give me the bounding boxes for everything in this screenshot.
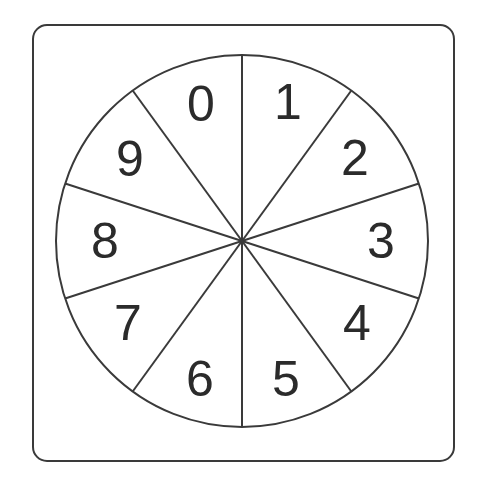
wheel-sector-label-2: 2 [341, 130, 369, 186]
wheel-sector-label-6: 6 [186, 351, 214, 407]
wheel-sector-label-3: 3 [367, 213, 395, 269]
wheel-sector-label-4: 4 [343, 295, 371, 351]
wheel-sector-label-0: 0 [187, 76, 215, 132]
spinner-wheel-graphic: 0123456789 [0, 0, 478, 482]
wheel-sector-label-9: 9 [116, 131, 144, 187]
wheel-sector-label-5: 5 [272, 351, 300, 407]
wheel-sector-label-7: 7 [114, 295, 142, 351]
wheel-sector-label-1: 1 [274, 74, 302, 130]
wheel-sector-label-8: 8 [91, 213, 119, 269]
wheel-canvas: 0123456789 [0, 0, 478, 482]
